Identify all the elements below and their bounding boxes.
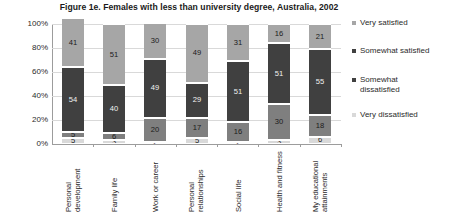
bar-segment-value-label: 40 — [110, 105, 118, 113]
bar-segment-value-label: 51 — [110, 51, 118, 59]
legend-item[interactable]: Somewhat satisfied — [352, 46, 429, 56]
bar-stack: 364051 — [103, 24, 125, 144]
chart-title: Figure 1e. Females with less than univer… — [34, 2, 364, 12]
x-axis-category-label: Social life — [217, 146, 258, 214]
legend-color-swatch — [352, 113, 356, 117]
bar-segment-value-label: 29 — [193, 96, 201, 104]
bar-segment[interactable]: 6 — [309, 137, 331, 144]
bar-segment[interactable]: 3 — [268, 140, 290, 144]
bar-stack: 5172949 — [186, 24, 208, 144]
legend-item-label: Very dissatisfied — [360, 110, 418, 120]
y-axis-tick-label: 40% — [18, 92, 48, 100]
bar-segment-value-label: 49 — [151, 84, 159, 92]
y-axis-tick-label: 20% — [18, 116, 48, 124]
plot-area: 5554413640512204930517294921651313305116… — [52, 24, 341, 144]
legend-color-swatch — [352, 49, 356, 53]
x-axis-category-label: My educational attainments — [300, 146, 341, 214]
bar-segment[interactable]: 2 — [227, 142, 249, 144]
x-axis-category-label: Health and fitness — [258, 146, 299, 214]
x-axis-category-label: Family life — [93, 146, 134, 214]
y-axis-tick-label: 100% — [18, 20, 48, 28]
bar-segment[interactable]: 16 — [268, 24, 290, 43]
bar-segment-value-label: 3 — [112, 140, 116, 144]
bar-segment[interactable]: 51 — [103, 24, 125, 85]
bar-segment[interactable]: 29 — [186, 83, 208, 118]
bar-segment-value-label: 21 — [316, 33, 324, 41]
x-axis-category-label: Work or career — [135, 146, 176, 214]
bar-segment[interactable]: 55 — [309, 49, 331, 115]
bar-stack: 555441 — [62, 24, 84, 144]
legend-item[interactable]: Very satisfied — [352, 18, 408, 28]
bar-segment-value-label: 16 — [234, 128, 242, 136]
bar-segment-value-label: 30 — [151, 37, 159, 45]
bar-segment[interactable]: 49 — [186, 24, 208, 83]
bar-segment[interactable]: 40 — [103, 85, 125, 133]
legend-color-swatch — [352, 21, 356, 25]
bar-segment-value-label: 20 — [151, 126, 159, 134]
bar-stack: 2165131 — [227, 24, 249, 144]
chart-figure: Figure 1e. Females with less than univer… — [0, 0, 467, 214]
bar-segment[interactable]: 6 — [103, 133, 125, 140]
bar-segment-value-label: 17 — [193, 124, 201, 132]
legend-item[interactable]: Somewhat dissatisfied — [352, 75, 400, 94]
bar-segment[interactable]: 41 — [62, 18, 84, 67]
bar-segment-value-label: 5 — [71, 132, 75, 138]
bar-segment[interactable]: 5 — [62, 138, 84, 144]
x-axis-category-label-text: Social life — [233, 146, 242, 212]
bar-segment[interactable]: 16 — [227, 122, 249, 141]
x-axis-category-label-text: Family life — [109, 146, 118, 212]
y-axis-tick-label: 80% — [18, 44, 48, 52]
bar-segment-value-label: 16 — [275, 30, 283, 38]
bar-segment[interactable]: 30 — [268, 104, 290, 140]
bar-segment[interactable]: 49 — [144, 59, 166, 118]
bar-segment[interactable]: 2 — [144, 142, 166, 144]
x-axis-category-labels: Personal developmentFamily lifeWork or c… — [52, 146, 341, 214]
bar-segment-value-label: 2 — [153, 142, 157, 144]
bar-segment[interactable]: 5 — [186, 138, 208, 144]
bar-segment-value-label: 51 — [234, 88, 242, 96]
bar-segment-value-label: 5 — [71, 138, 75, 144]
y-axis-tick-label: 60% — [18, 68, 48, 76]
bar-segment[interactable]: 17 — [186, 118, 208, 138]
bar-segment-value-label: 2 — [236, 142, 240, 144]
bar-segment-value-label: 30 — [275, 118, 283, 126]
bar-segment[interactable]: 51 — [268, 43, 290, 104]
bar-segment-value-label: 54 — [69, 96, 77, 104]
bar-segment-value-label: 3 — [277, 140, 281, 144]
x-axis-category-label-text: Personal relationships — [187, 146, 205, 212]
x-axis-tick-mark — [341, 144, 342, 147]
bar-segment-value-label: 55 — [316, 78, 324, 86]
bar-segment[interactable]: 30 — [144, 23, 166, 59]
bar-segment-value-label: 6 — [112, 133, 116, 140]
x-axis-category-label-text: My educational attainments — [311, 146, 329, 212]
bar-segment-value-label: 18 — [316, 122, 324, 130]
x-axis-category-label-text: Work or career — [151, 146, 160, 212]
x-axis-category-label: Personal relationships — [176, 146, 217, 214]
bar-segment-value-label: 5 — [195, 138, 199, 144]
bar-segment[interactable]: 21 — [309, 24, 331, 49]
bar-segment[interactable]: 54 — [62, 67, 84, 132]
bar-stack: 3305116 — [268, 24, 290, 144]
bar-stack: 2204930 — [144, 24, 166, 144]
legend-item-label: Somewhat satisfied — [360, 46, 429, 56]
bar-segment-value-label: 31 — [234, 39, 242, 47]
bar-stack: 6185521 — [309, 24, 331, 144]
bar-segment[interactable]: 31 — [227, 24, 249, 61]
bar-segment[interactable]: 20 — [144, 118, 166, 142]
legend-color-swatch — [352, 78, 356, 82]
x-axis-line — [52, 144, 341, 145]
bar-segment[interactable]: 18 — [309, 115, 331, 137]
bar-segment-value-label: 49 — [193, 49, 201, 57]
legend-item-label: Very satisfied — [360, 18, 408, 28]
bar-segment[interactable]: 3 — [103, 140, 125, 144]
y-axis-tick-label: 0% — [18, 140, 48, 148]
bar-segment[interactable]: 5 — [62, 132, 84, 138]
y-axis-line — [52, 24, 53, 145]
legend-item[interactable]: Very dissatisfied — [352, 110, 418, 120]
legend-item-label: Somewhat dissatisfied — [360, 75, 400, 94]
bar-segment-value-label: 41 — [69, 39, 77, 47]
y-axis: 0%20%40%60%80%100% — [14, 24, 48, 145]
x-axis-category-label-text: Personal development — [64, 146, 82, 212]
x-axis-category-label: Personal development — [52, 146, 93, 214]
bar-segment[interactable]: 51 — [227, 61, 249, 122]
